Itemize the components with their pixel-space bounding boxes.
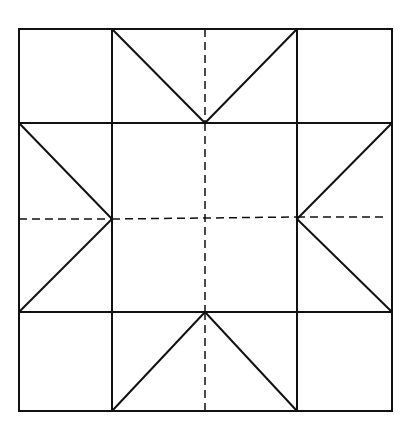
star-point-left <box>19 123 112 312</box>
fold-line-horizontal-center <box>112 217 297 219</box>
quilt-block-diagram <box>0 0 408 427</box>
